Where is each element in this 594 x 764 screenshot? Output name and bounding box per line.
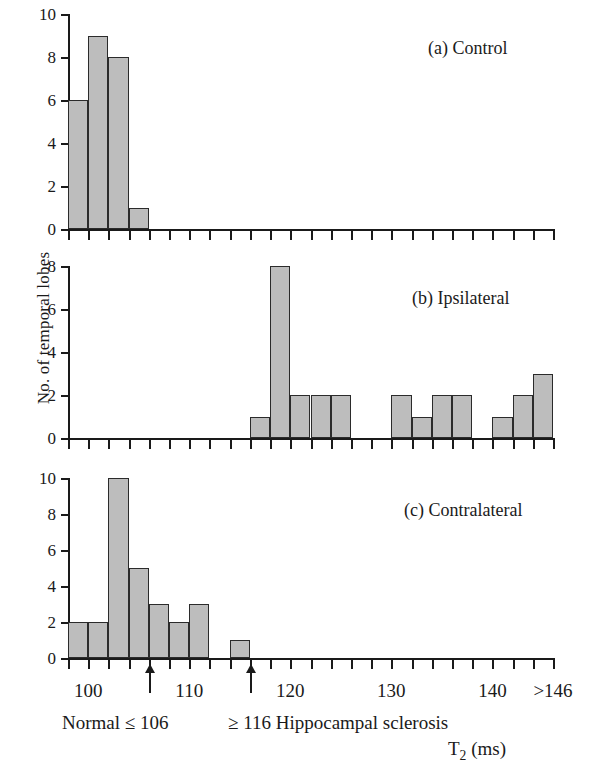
- x-tick-label-110: 110: [159, 680, 219, 702]
- y-tick-label-c-8: 8: [26, 506, 56, 523]
- bar-c-102: [108, 478, 128, 658]
- y-tick-label-c-4: 4: [26, 578, 56, 595]
- bar-c-114: [230, 640, 250, 658]
- arrow2-head-icon: [246, 664, 256, 673]
- x-axis-title-unit: (ms): [466, 738, 506, 759]
- x-tick-c-98: [68, 660, 70, 669]
- bar-c-108: [169, 622, 189, 658]
- y-tick-label-c-6: 6: [26, 542, 56, 559]
- x-tick-c-142: [513, 660, 515, 669]
- arrow2-shaft-icon: [250, 671, 252, 693]
- x-tick-c-138: [472, 660, 474, 669]
- x-tick-c-134: [432, 660, 434, 669]
- x-tick-label-130: 130: [361, 680, 421, 702]
- y-tick-label-c-2: 2: [26, 614, 56, 631]
- x-axis-title: T2 (ms): [448, 738, 506, 764]
- x-tick-c-114: [230, 660, 232, 669]
- x-tick-c-110: [189, 660, 191, 669]
- x-axis-title-symbol: T: [448, 738, 460, 759]
- x-tick-c-126: [351, 660, 353, 669]
- x-tick-label-120: 120: [260, 680, 320, 702]
- y-tick-label-c-0: 0: [26, 650, 56, 667]
- x-tick-label-140: 140: [462, 680, 522, 702]
- panel-title-c: (c) Contralateral: [404, 500, 522, 521]
- x-tick-c-120: [290, 660, 292, 669]
- x-tick-c-130: [391, 660, 393, 669]
- x-tick-c-146: [553, 660, 555, 669]
- x-tick-c-102: [108, 660, 110, 669]
- bar-c-98: [68, 622, 88, 658]
- sclerosis-range-note: ≥ 116 Hippocampal sclerosis: [228, 712, 448, 734]
- x-tick-c-124: [331, 660, 333, 669]
- bar-c-110: [189, 604, 209, 658]
- bar-c-106: [149, 604, 169, 658]
- x-tick-c-128: [371, 660, 373, 669]
- x-tick-label-gt146: >146: [523, 680, 583, 702]
- y-tick-c-2: [61, 622, 68, 624]
- bar-c-100: [88, 622, 108, 658]
- y-tick-c-10: [61, 478, 68, 480]
- x-tick-c-132: [412, 660, 414, 669]
- x-tick-c-122: [311, 660, 313, 669]
- y-tick-label-c-10: 10: [26, 470, 56, 487]
- arrow1-head-icon: [145, 664, 155, 673]
- y-tick-c-6: [61, 550, 68, 552]
- y-tick-c-8: [61, 514, 68, 516]
- x-tick-c-104: [129, 660, 131, 669]
- x-tick-c-118: [270, 660, 272, 669]
- x-tick-label-100: 100: [58, 680, 118, 702]
- x-tick-c-112: [209, 660, 211, 669]
- x-tick-c-140: [492, 660, 494, 669]
- y-tick-c-0: [61, 658, 68, 660]
- x-tick-c-136: [452, 660, 454, 669]
- y-tick-c-4: [61, 586, 68, 588]
- x-tick-c-144: [533, 660, 535, 669]
- x-tick-c-108: [169, 660, 171, 669]
- arrow1-shaft-icon: [149, 671, 151, 693]
- normal-range-note: Normal ≤ 106: [62, 712, 168, 734]
- bar-c-104: [129, 568, 149, 658]
- x-tick-c-100: [88, 660, 90, 669]
